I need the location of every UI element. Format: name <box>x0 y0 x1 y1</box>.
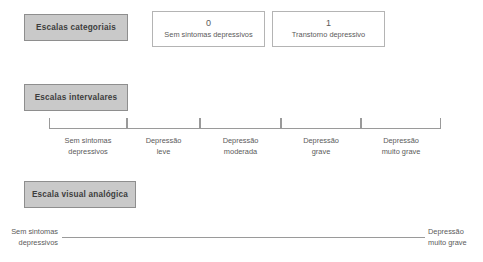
categorical-option-1-code: 1 <box>326 18 331 29</box>
interval-label-4-line1: Depressão <box>383 136 419 145</box>
categorical-option-0-code: 0 <box>206 18 211 29</box>
vas-left-anchor-line1: Sem sintomas <box>0 226 58 237</box>
visual-analog-scale-line <box>62 237 425 238</box>
interval-scale-axis <box>0 118 483 132</box>
interval-label-2-line1: Depressão <box>223 136 259 145</box>
categorical-option-1: 1 Transtorno depressivo <box>272 11 385 47</box>
interval-label-4: Depressãomuito grave <box>356 136 446 157</box>
row-label-categorical-scales: Escalas categoriais <box>24 14 128 41</box>
interval-label-3-line2: grave <box>276 147 366 158</box>
interval-label-0-line1: Sem sintomas <box>65 136 112 145</box>
categorical-option-1-description: Transtorno depressivo <box>292 31 365 40</box>
interval-segment-2 <box>200 118 281 129</box>
interval-scale-labels: Sem sintomasdepressivosDepressãoleveDepr… <box>0 136 483 162</box>
row-label-interval-scales: Escalas intervalares <box>24 84 128 111</box>
vas-left-anchor-line2: depressivos <box>0 237 58 248</box>
vas-right-anchor-label: Depressão muito grave <box>428 226 483 248</box>
interval-label-2: Depressãomoderada <box>196 136 286 157</box>
interval-segment-1 <box>127 118 200 129</box>
vas-right-anchor-line2: muito grave <box>428 237 483 248</box>
vas-right-anchor-line1: Depressão <box>428 226 483 237</box>
interval-label-4-line2: muito grave <box>356 147 446 158</box>
vas-left-anchor-label: Sem sintomas depressivos <box>0 226 58 248</box>
row-label-visual-analog-scale: Escala visual analógica <box>24 181 136 208</box>
interval-label-1-line1: Depressão <box>146 136 182 145</box>
interval-segment-3 <box>281 118 361 129</box>
interval-label-2-line2: moderada <box>196 147 286 158</box>
categorical-option-0: 0 Sem sintomas depressivos <box>152 11 265 47</box>
interval-label-3: Depressãograve <box>276 136 366 157</box>
diagram-canvas: Escalas categoriais 0 Sem sintomas depre… <box>0 0 483 262</box>
categorical-option-0-description: Sem sintomas depressivos <box>164 31 252 40</box>
interval-segment-4 <box>361 118 441 129</box>
interval-label-3-line1: Depressão <box>303 136 339 145</box>
interval-segment-0 <box>49 118 127 129</box>
